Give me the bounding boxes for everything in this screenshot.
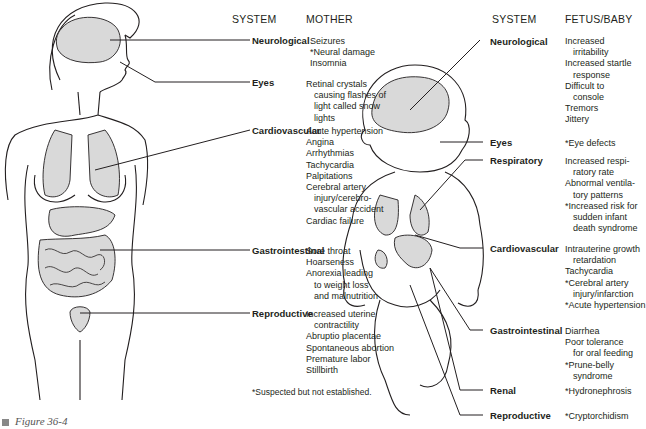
effect-line: Poor tolerance xyxy=(565,337,633,348)
mother-effects-reproductive: Increased uterinecontractilityAbruptio p… xyxy=(306,309,394,376)
effect-line: Difficult to xyxy=(565,81,632,92)
effect-line: console xyxy=(565,92,632,103)
effect-line: Premature labor xyxy=(306,354,394,365)
mother-uterus-icon xyxy=(70,307,90,332)
effect-line: *Prune-belly xyxy=(565,360,633,371)
mother-lung-right-icon xyxy=(88,130,119,197)
effect-line: to weight loss xyxy=(306,280,378,291)
effect-line: Abnormal ventila- xyxy=(565,178,638,189)
mother-system-header: SYSTEM xyxy=(232,13,276,25)
effect-line: Insomnia xyxy=(310,58,375,69)
effect-line: Tachycardia xyxy=(565,266,646,277)
effect-line: ratory rate xyxy=(565,167,638,178)
fetus-system-renal: Renal xyxy=(490,385,516,396)
effect-line: *Eye defects xyxy=(565,138,616,149)
fetus-effects-header: FETUS/BABY xyxy=(565,13,632,25)
effect-line: irritability xyxy=(565,47,632,58)
effect-line: death syndrome xyxy=(565,223,638,234)
mother-effects-cardiovascular: Acute hypertensionAnginaArrhythmiasTachy… xyxy=(306,126,384,227)
effect-line: vascular accident xyxy=(306,204,384,215)
effect-line: Cerebral artery xyxy=(306,182,384,193)
mother-effects-neurological: Seizures*Neural damageInsomnia xyxy=(310,36,375,70)
baby-stomach-icon xyxy=(394,235,432,268)
mother-system-neurological: Neurological xyxy=(252,35,310,46)
effect-line: Seizures xyxy=(310,36,375,47)
effect-line: *Increased risk for xyxy=(565,201,638,212)
fetus-system-eyes: Eyes xyxy=(490,137,512,148)
effect-line: *Cryptorchidism xyxy=(565,411,629,422)
effect-line: Palpitations xyxy=(306,171,384,182)
fetus-system-header: SYSTEM xyxy=(492,13,536,25)
fetus-system-neurological: Neurological xyxy=(490,36,548,47)
fetus-system-reproductive: Reproductive xyxy=(490,410,551,421)
fetus-effects-neurological: IncreasedirritabilityIncreased startlere… xyxy=(565,36,632,126)
effect-line: Intrauterine growth xyxy=(565,244,646,255)
effect-line: Abruptio placentae xyxy=(306,331,394,342)
effect-line: Angina xyxy=(306,137,384,148)
fetus-effects-gastrointestinal: DiarrheaPoor tolerancefor oral feeding*P… xyxy=(565,326,633,382)
effect-line: for oral feeding xyxy=(565,348,633,359)
mother-lung-left-icon xyxy=(43,130,72,197)
effect-line: Diarrhea xyxy=(565,326,633,337)
mother-effects-header: MOTHER xyxy=(306,13,353,25)
effect-line: Increased uterine xyxy=(306,309,394,320)
effect-line: Tachycardia xyxy=(306,160,384,171)
effect-line: syndrome xyxy=(565,371,633,382)
effect-line: Increased xyxy=(565,36,632,47)
mother-effects-gastrointestinal: Sore throatHoarsenessAnorexia leadingto … xyxy=(306,246,378,302)
fetus-effects-renal: *Hydronephrosis xyxy=(565,386,632,397)
mother-effects-eyes: Retinal crystalscausing flashes oflight … xyxy=(306,79,386,124)
effect-line: tory patterns xyxy=(565,190,638,201)
effect-line: light called snow xyxy=(306,101,386,112)
effect-line: Increased respi- xyxy=(565,156,638,167)
effect-line: lights xyxy=(306,113,386,124)
effect-line: injury/cerebro- xyxy=(306,193,384,204)
effect-line: *Cerebral artery xyxy=(565,278,646,289)
effect-line: sudden infant xyxy=(565,212,638,223)
figure-caption-text: Figure 36-4 xyxy=(15,415,67,427)
effect-line: Stillbirth xyxy=(306,365,394,376)
fetus-effects-respiratory: Increased respi-ratory rateAbnormal vent… xyxy=(565,156,638,234)
caption-square-icon xyxy=(2,419,9,426)
effect-line: *Hydronephrosis xyxy=(565,386,632,397)
mother-system-eyes: Eyes xyxy=(252,77,274,88)
mother-system-reproductive: Reproductive xyxy=(252,308,313,319)
effect-line: *Acute hypertension xyxy=(565,300,646,311)
effect-line: Spontaneous abortion xyxy=(306,343,394,354)
effect-line: Retinal crystals xyxy=(306,79,386,90)
effect-line: Hoarseness xyxy=(306,257,378,268)
effect-line: Anorexia leading xyxy=(306,268,378,279)
effect-line: Tremors xyxy=(565,103,632,114)
effect-line: causing flashes of xyxy=(306,90,386,101)
effect-line: Sore throat xyxy=(306,246,378,257)
effect-line: Acute hypertension xyxy=(306,126,384,137)
fetus-system-gastrointestinal: Gastrointestinal xyxy=(490,325,562,336)
mother-footnote: *Suspected but not established. xyxy=(252,387,372,397)
figure-caption: Figure 36-4 xyxy=(2,415,67,427)
fetus-system-respiratory: Respiratory xyxy=(490,155,543,166)
baby-lung-right-icon xyxy=(410,195,429,235)
effect-line: and malnutrition xyxy=(306,291,378,302)
effect-line: *Neural damage xyxy=(310,47,375,58)
effect-line: response xyxy=(565,70,632,81)
effect-line: Arrhythmias xyxy=(306,148,384,159)
fetus-system-cardiovascular: Cardiovascular xyxy=(490,243,559,254)
fetus-effects-cardiovascular: Intrauterine growthretardationTachycardi… xyxy=(565,244,646,311)
mother-figure xyxy=(5,3,147,400)
effect-line: Cardiac failure xyxy=(306,216,384,227)
effect-line: retardation xyxy=(565,255,646,266)
effect-line: Increased startle xyxy=(565,58,632,69)
fetus-effects-reproductive: *Cryptorchidism xyxy=(565,411,629,422)
effect-line: contractility xyxy=(306,320,394,331)
fetus-effects-eyes: *Eye defects xyxy=(565,138,616,149)
effect-line: injury/infarction xyxy=(565,289,646,300)
effect-line: Jittery xyxy=(565,114,632,125)
mother-stomach-icon xyxy=(49,207,115,237)
